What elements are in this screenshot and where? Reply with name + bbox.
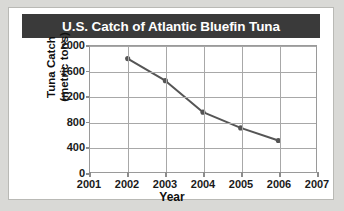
x-axis-tick-label: 2001	[77, 178, 101, 190]
x-axis-tick-label: 2005	[229, 178, 253, 190]
plot-area	[89, 45, 317, 173]
y-axis-tick-label: 1600	[61, 65, 85, 77]
x-axis-tick-mark	[279, 172, 281, 177]
x-axis-tick-label: 2006	[267, 178, 291, 190]
chart-figure: U.S. Catch of Atlantic Bluefin Tuna Tuna…	[8, 7, 334, 200]
x-axis-tick-mark	[89, 172, 91, 177]
series-line-tuna-catch	[90, 46, 316, 172]
y-axis-tick-labels: 0400800120016002000	[45, 38, 85, 180]
gridline-horizontal	[90, 148, 316, 149]
x-axis-tick-label: 2003	[153, 178, 177, 190]
gridline-vertical	[242, 46, 243, 172]
gridline-horizontal	[90, 97, 316, 98]
chart-title: U.S. Catch of Atlantic Bluefin Tuna	[62, 19, 280, 34]
gridline-vertical	[166, 46, 167, 172]
y-axis-tick-label: 1200	[61, 90, 85, 102]
gridline-horizontal	[90, 46, 316, 47]
y-axis-tick-label: 400	[67, 141, 85, 153]
x-axis-tick-mark	[127, 172, 129, 177]
x-axis-tick-label: 2002	[115, 178, 139, 190]
gridline-vertical	[204, 46, 205, 172]
y-axis-tick-label: 2000	[61, 39, 85, 51]
x-axis-tick-mark	[203, 172, 205, 177]
gridline-horizontal	[90, 72, 316, 73]
x-axis-tick-mark	[241, 172, 243, 177]
gridline-vertical	[128, 46, 129, 172]
x-axis-tick-mark	[317, 172, 319, 177]
x-axis-label: Year	[9, 190, 335, 204]
x-axis-tick-label: 2007	[305, 178, 329, 190]
y-axis-tick-label: 800	[67, 116, 85, 128]
x-axis-tick-label: 2004	[191, 178, 215, 190]
gridline-horizontal	[90, 123, 316, 124]
x-axis-tick-mark	[165, 172, 167, 177]
gridline-vertical	[280, 46, 281, 172]
